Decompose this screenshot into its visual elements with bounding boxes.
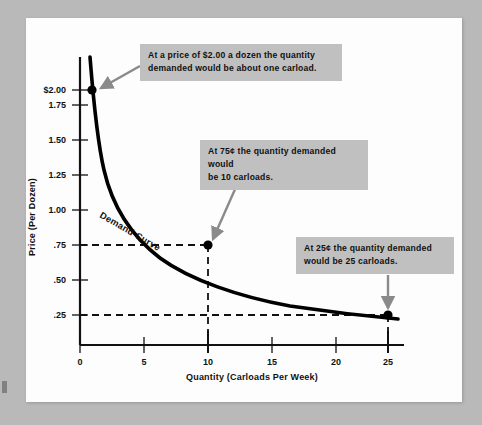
arrow-to-point-1	[101, 66, 140, 88]
annotation-1-line-1: At a price of $2.00 a dozen the quantity	[148, 49, 334, 62]
annotation-3-line-1: At 25¢ the quantity demanded	[304, 242, 446, 255]
x-tick-label-0: 0	[68, 357, 92, 367]
x-tick-label-25: 25	[376, 357, 400, 367]
y-tick-label-1-75: 1.75	[24, 100, 66, 110]
annotation-1-line-2: demanded would be about one carload.	[148, 62, 334, 75]
y-tick-label-2-00: $2.00	[24, 85, 66, 95]
data-point-25-carloads	[383, 310, 392, 319]
data-point-1-carload	[87, 85, 96, 94]
annotation-box-price-25-cents: At 25¢ the quantity demanded would be 25…	[296, 237, 454, 274]
data-point-10-carloads	[203, 240, 212, 249]
annotation-2-line-1: At 75¢ the quantity demanded would	[208, 145, 360, 171]
x-tick-label-20: 20	[324, 357, 348, 367]
x-tick-label-10: 10	[196, 357, 220, 367]
y-tick-label-25: .25	[24, 310, 66, 320]
annotation-2-line-2: be 10 carloads.	[208, 171, 360, 184]
y-axis-title: Price (Per Dozen)	[27, 167, 37, 267]
y-tick-label-1-50: 1.50	[24, 135, 66, 145]
annotation-box-price-75-cents: At 75¢ the quantity demanded would be 10…	[200, 140, 368, 190]
figure-page: $2.00 1.75 1.50 1.25 1.00 .75 .50 .25 0 …	[0, 0, 482, 425]
y-tick-label-50: .50	[24, 275, 66, 285]
x-axis-title: Quantity (Carloads Per Week)	[152, 372, 352, 382]
x-tick-label-15: 15	[260, 357, 284, 367]
x-tick-label-5: 5	[132, 357, 156, 367]
annotation-3-line-2: would be 25 carloads.	[304, 255, 446, 268]
demand-curve-figure: $2.00 1.75 1.50 1.25 1.00 .75 .50 .25 0 …	[0, 0, 482, 425]
x-axis-ticks	[80, 331, 388, 353]
annotation-box-price-2-00: At a price of $2.00 a dozen the quantity…	[140, 44, 342, 81]
